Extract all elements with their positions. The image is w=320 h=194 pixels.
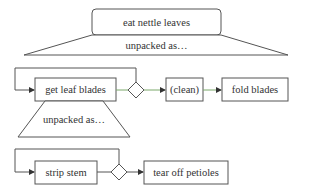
decision-diamond-row1[interactable] bbox=[128, 82, 144, 98]
strip-stem-label: strip stem bbox=[35, 161, 97, 184]
tear-off-petioles-label: tear off petioles bbox=[144, 161, 228, 184]
fold-blades-label: fold blades bbox=[222, 78, 288, 101]
clean-label: (clean) bbox=[166, 78, 203, 101]
unpack-label-top: unpacked as… bbox=[92, 36, 221, 55]
decision-diamond-row2[interactable] bbox=[111, 164, 127, 180]
get-leaf-blades-label: get leaf blades bbox=[35, 78, 116, 101]
unpack-label-row1: unpacked as… bbox=[30, 108, 118, 130]
goal-label: eat nettle leaves bbox=[92, 9, 221, 35]
